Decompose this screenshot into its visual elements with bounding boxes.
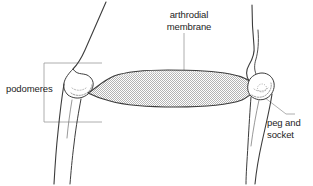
arthrodial-membrane-shape — [88, 70, 259, 107]
left-podomere-outline — [64, 2, 106, 98]
left-podomere-lower-outline — [54, 84, 81, 184]
podomeres-label: podomeres — [6, 83, 66, 95]
peg-and-socket-label: peg and socket — [267, 117, 313, 140]
right-podomere-outline — [247, 5, 274, 100]
figure-container: arthrodial membrane podomeres peg and so… — [0, 0, 313, 186]
arthrodial-membrane-label: arthrodial membrane — [148, 9, 230, 32]
